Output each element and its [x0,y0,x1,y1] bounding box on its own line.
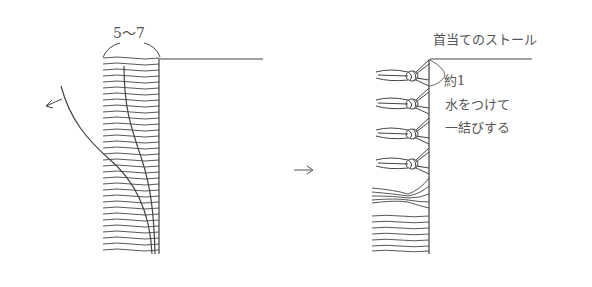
stole-title-label: 首当てのストール [433,33,537,46]
instruction-line-1: 水をつけて [445,98,510,111]
measure-bracket-left [103,43,120,57]
loose-fringe-threads [372,215,429,252]
pull-direction-arrow-icon [46,99,62,108]
transition-arrow-icon [294,166,313,174]
knot-tassel [376,118,429,144]
measurement-label-approx: 約1 [444,74,465,87]
instruction-line-2: 一結びする [445,121,510,134]
weft-threads [103,57,159,251]
measure-bracket-right [144,43,160,57]
right-figure [372,59,532,254]
gathered-threads [372,178,429,208]
measure-bracket-approx [430,60,445,86]
knot-tassel [376,60,429,86]
measurement-label-fringe-width: 5〜7 [113,26,145,40]
left-figure [46,43,263,254]
knot-tassel [376,148,429,174]
knot-tassel [376,88,429,114]
